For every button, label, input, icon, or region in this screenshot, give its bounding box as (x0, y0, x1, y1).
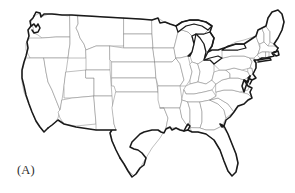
state-shape-AZ (58, 96, 96, 126)
state-shape-WA (30, 13, 70, 38)
state-shape-FL (190, 126, 238, 176)
state-shape-NE (110, 46, 155, 62)
state-boundaries-group (22, 10, 284, 176)
us-outline-map (0, 0, 295, 193)
cape-cod (274, 51, 279, 56)
state-shape-KS (112, 62, 156, 78)
state-shape-OR (26, 37, 70, 58)
state-shape-IA (153, 48, 176, 62)
panel-label: (A) (17, 164, 35, 177)
state-shape-WY (86, 46, 110, 70)
state-shape-OK (112, 78, 158, 92)
state-shape-SD (124, 34, 153, 48)
figure-panel: (A) (0, 0, 295, 193)
state-shape-AL (188, 102, 202, 128)
state-shape-AR (158, 86, 182, 108)
